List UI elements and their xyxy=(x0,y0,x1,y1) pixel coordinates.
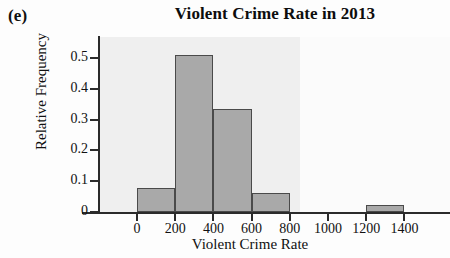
histogram-bar xyxy=(175,55,213,212)
x-axis-tick xyxy=(365,213,367,221)
x-axis-tick xyxy=(403,213,405,221)
y-axis-tick xyxy=(90,57,98,59)
histogram-bar xyxy=(252,193,290,212)
x-axis-tick xyxy=(212,213,214,221)
x-axis-tick-label: 1400 xyxy=(374,221,434,237)
panel-label: (e) xyxy=(8,6,27,26)
y-axis-tick-label: 0.3 xyxy=(71,111,89,127)
y-axis-tick-label: 0.2 xyxy=(71,141,89,157)
y-axis-tick-label: 0 xyxy=(81,203,88,219)
y-axis-label: Relative Frequency xyxy=(33,2,50,182)
histogram-bar xyxy=(213,109,251,212)
x-axis-tick xyxy=(136,213,138,221)
y-axis-tick xyxy=(90,211,98,213)
x-axis-label: Violent Crime Rate xyxy=(110,236,390,253)
histogram-bar xyxy=(137,188,175,212)
figure-container: (e) Violent Crime Rate in 2013 Relative … xyxy=(0,0,450,258)
plot-panel-background-right xyxy=(300,37,450,213)
y-axis-tick-label: 0.1 xyxy=(71,172,89,188)
x-axis-tick xyxy=(174,213,176,221)
x-axis-tick xyxy=(289,213,291,221)
x-axis-tick xyxy=(251,213,253,221)
y-axis-tick xyxy=(90,180,98,182)
y-axis-line xyxy=(98,36,100,214)
y-axis-tick xyxy=(90,149,98,151)
y-axis-tick-label: 0.5 xyxy=(71,49,89,65)
histogram-bar xyxy=(366,205,404,212)
y-axis-tick-label: 0.4 xyxy=(71,80,89,96)
y-axis-tick xyxy=(90,119,98,121)
chart-title: Violent Crime Rate in 2013 xyxy=(105,4,445,24)
x-axis-tick xyxy=(327,213,329,221)
y-axis-tick xyxy=(90,88,98,90)
